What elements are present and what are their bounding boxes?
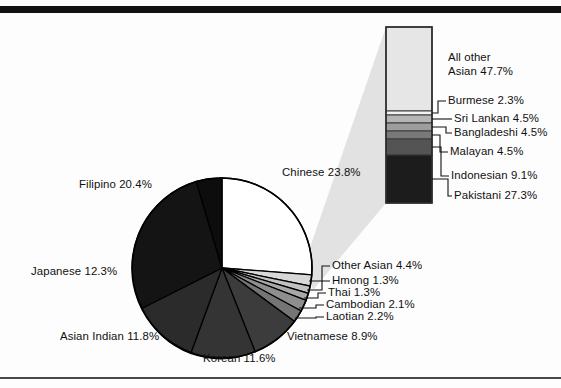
pie-slice-chinese[interactable] (222, 178, 312, 275)
leader-bangladeshi (432, 127, 452, 133)
bar-leader-lines (432, 101, 452, 196)
pie-label-japanese: Japanese 12.3% (31, 265, 117, 279)
bar-label-all-other-asian: All other Asian 47.7% (448, 50, 513, 78)
pie-label-chinese: Chinese 23.8% (282, 166, 361, 180)
pie-chart-figure: Chinese 23.8% Filipino 20.4% Japanese 12… (0, 0, 561, 388)
bar-label-indonesian: Indonesian 9.1% (451, 169, 537, 183)
leader-pakistani (432, 179, 452, 196)
bar-segment-malayan[interactable] (386, 131, 432, 139)
bar-label-all-other-asian-line1: All other (448, 51, 491, 63)
bar-label-burmese: Burmese 2.3% (448, 94, 524, 108)
pie-label-vietnamese: Vietnamese 8.9% (287, 330, 378, 344)
pie-label-filipino: Filipino 20.4% (79, 178, 152, 192)
bar-segment-bangladeshi[interactable] (386, 123, 432, 131)
leader-burmese (432, 101, 446, 113)
bar-segment-pakistani[interactable] (386, 155, 432, 203)
bar-segment-sri-lankan[interactable] (386, 115, 432, 123)
pie-label-asian-indian: Asian Indian 11.8% (60, 330, 159, 344)
pie-label-korean: Korean 11.6% (203, 352, 276, 366)
bar-label-malayan: Malayan 4.5% (450, 145, 523, 159)
bar-segment-all-other-asian[interactable] (386, 27, 432, 111)
bar-label-bangladeshi: Bangladeshi 4.5% (454, 126, 547, 140)
leader-laotian (295, 317, 324, 318)
leader-indonesian (432, 147, 449, 176)
breakout-connector-funnel (305, 27, 386, 290)
pie-label-other-asian: Other Asian 4.4% (332, 259, 422, 273)
leader-malayan (432, 135, 448, 152)
pie-label-laotian: Laotian 2.2% (326, 310, 394, 324)
bar-segment-indonesian[interactable] (386, 139, 432, 155)
bar-segment-burmese[interactable] (386, 111, 432, 115)
breakout-bar (386, 27, 432, 203)
bar-label-all-other-asian-line2: Asian 47.7% (448, 65, 513, 77)
bar-label-pakistani: Pakistani 27.3% (454, 189, 537, 203)
bar-label-sri-lankan: Sri Lankan 4.5% (454, 112, 539, 126)
